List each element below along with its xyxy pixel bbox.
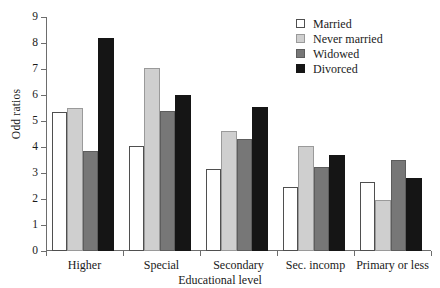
legend-label: Married — [313, 18, 352, 30]
bar — [83, 151, 99, 251]
y-tick-label: 7 — [16, 63, 38, 75]
y-tick-label: 1 — [16, 219, 38, 231]
bar — [283, 187, 299, 251]
bar — [221, 131, 237, 251]
y-tick-label: 8 — [16, 37, 38, 49]
x-tick-mark — [277, 251, 278, 256]
legend-label: Widowed — [313, 48, 359, 60]
bar — [206, 169, 222, 251]
y-tick-label: 4 — [16, 141, 38, 153]
legend-swatch-icon — [296, 19, 305, 28]
bar — [406, 178, 422, 251]
legend-item: Never married — [296, 31, 383, 46]
bar — [52, 112, 68, 251]
bar — [175, 95, 191, 251]
bar-chart-figure: Odd ratios 0123456789 HigherSpecialSecon… — [0, 0, 440, 288]
legend-swatch-icon — [296, 34, 305, 43]
x-tick-mark — [123, 251, 124, 256]
x-tick-mark — [354, 251, 355, 256]
bar — [391, 160, 407, 251]
y-tick-label: 2 — [16, 193, 38, 205]
y-tick-label: 9 — [16, 11, 38, 23]
x-tick-mark — [46, 251, 47, 256]
y-tick-label: 6 — [16, 89, 38, 101]
bar — [144, 68, 160, 251]
bar — [160, 111, 176, 251]
bar — [129, 146, 145, 251]
bar — [298, 146, 314, 251]
y-tick-label: 3 — [16, 167, 38, 179]
legend-swatch-icon — [296, 64, 305, 73]
bar — [252, 107, 268, 251]
x-tick-mark — [431, 251, 432, 256]
bar — [98, 38, 114, 251]
legend-swatch-icon — [296, 49, 305, 58]
legend-label: Divorced — [313, 63, 358, 75]
bar — [360, 182, 376, 251]
y-tick-label: 0 — [16, 245, 38, 257]
legend-item: Widowed — [296, 46, 383, 61]
legend-item: Divorced — [296, 61, 383, 76]
legend-label: Never married — [313, 33, 383, 45]
x-category-label: Primary or less — [344, 258, 440, 273]
bar — [375, 200, 391, 251]
x-tick-mark — [200, 251, 201, 256]
y-tick-label: 5 — [16, 115, 38, 127]
legend-item: Married — [296, 16, 383, 31]
legend: MarriedNever marriedWidowedDivorced — [296, 16, 383, 76]
bar — [67, 108, 83, 251]
bar — [329, 155, 345, 251]
bar — [314, 167, 330, 252]
bar — [237, 139, 253, 251]
x-axis-title: Educational level — [0, 273, 440, 288]
